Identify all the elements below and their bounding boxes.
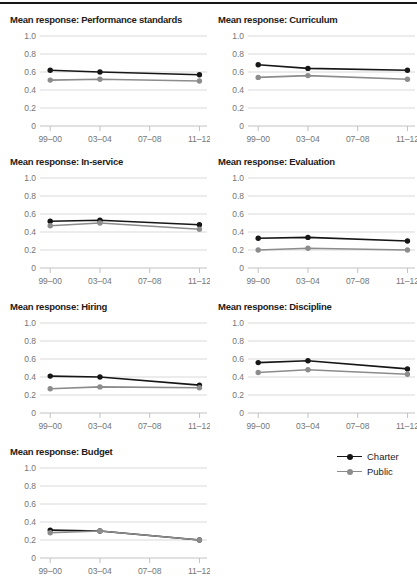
legend-item-charter: Charter xyxy=(337,450,399,463)
x-tick-label: 07–08 xyxy=(346,421,370,431)
legend-dot xyxy=(347,469,353,475)
data-point-public xyxy=(305,367,310,372)
charter-line-marker-icon xyxy=(337,452,362,462)
chart-title: Mean response: Curriculum xyxy=(218,14,417,26)
y-tick-label: 0.2 xyxy=(24,390,36,400)
chart-canvas: 00.20.40.60.81.099–0003–0407–0811–12 xyxy=(218,314,417,434)
data-point-charter xyxy=(197,72,202,77)
line-plot: 00.20.40.60.81.099–0003–0407–0811–12 xyxy=(10,169,208,289)
x-tick-label: 99–00 xyxy=(246,421,270,431)
data-point-public xyxy=(256,370,261,375)
x-tick-label: 03–04 xyxy=(88,421,112,431)
data-point-public xyxy=(97,77,102,82)
x-tick-label: 07–08 xyxy=(346,276,370,286)
data-point-charter xyxy=(97,374,102,379)
y-tick-label: 0.2 xyxy=(232,245,244,255)
y-tick-label: 1.0 xyxy=(232,31,244,41)
chart-title: Mean response: In-service xyxy=(10,156,208,168)
x-tick-label: 03–04 xyxy=(88,566,112,576)
series-line-public xyxy=(50,387,199,389)
chart-canvas: 00.20.40.60.81.099–0003–0407–0811–12 xyxy=(10,27,210,147)
legend: Charter Public xyxy=(208,442,417,577)
x-tick-label: 11–12 xyxy=(396,134,417,144)
chart-title: Mean response: Hiring xyxy=(10,301,208,313)
x-tick-label: 11–12 xyxy=(188,566,210,576)
data-point-charter xyxy=(405,366,410,371)
data-point-public xyxy=(97,220,102,225)
data-point-public xyxy=(48,223,53,228)
x-tick-label: 03–04 xyxy=(296,276,320,286)
data-point-charter xyxy=(256,62,261,67)
y-tick-label: 0.6 xyxy=(232,67,244,77)
line-plot: 00.20.40.60.81.099–0003–0407–0811–12 xyxy=(218,27,417,147)
x-tick-label: 11–12 xyxy=(396,421,417,431)
chart-panel-in-service: Mean response: In-service 00.20.40.60.81… xyxy=(0,152,208,297)
x-tick-label: 99–00 xyxy=(38,566,62,576)
data-point-public xyxy=(197,227,202,232)
y-tick-label: 0 xyxy=(239,263,244,273)
data-point-charter xyxy=(256,236,261,241)
series-line-public xyxy=(50,79,199,81)
data-point-public xyxy=(305,246,310,251)
series-line-public xyxy=(50,531,199,540)
y-tick-label: 0 xyxy=(239,408,244,418)
data-point-public xyxy=(97,384,102,389)
y-tick-label: 0.8 xyxy=(24,336,36,346)
data-point-public xyxy=(197,78,202,83)
chart-panel-curriculum: Mean response: Curriculum 00.20.40.60.81… xyxy=(208,4,417,152)
x-tick-label: 99–00 xyxy=(38,276,62,286)
public-line-marker-icon xyxy=(337,467,362,477)
line-plot: 00.20.40.60.81.099–0003–0407–0811–12 xyxy=(10,314,208,434)
y-tick-label: 0.4 xyxy=(24,227,36,237)
series-line-charter xyxy=(258,65,407,70)
chart-canvas: 00.20.40.60.81.099–0003–0407–0811–12 xyxy=(10,314,210,434)
chart-panel-discipline: Mean response: Discipline 00.20.40.60.81… xyxy=(208,297,417,442)
data-point-public xyxy=(48,386,53,391)
x-tick-label: 11–12 xyxy=(396,276,417,286)
data-point-public xyxy=(256,247,261,252)
y-tick-label: 0.8 xyxy=(24,49,36,59)
y-tick-label: 0.8 xyxy=(232,49,244,59)
line-plot: 00.20.40.60.81.099–0003–0407–0811–12 xyxy=(10,459,208,577)
y-tick-label: 0.4 xyxy=(24,85,36,95)
y-tick-label: 0.4 xyxy=(232,372,244,382)
x-tick-label: 11–12 xyxy=(188,421,210,431)
chart-canvas: 00.20.40.60.81.099–0003–0407–0811–12 xyxy=(10,169,210,289)
data-point-public xyxy=(48,77,53,82)
legend-label-public: Public xyxy=(367,466,393,477)
chart-title: Mean response: Discipline xyxy=(218,301,417,313)
y-tick-label: 0.2 xyxy=(24,535,36,545)
y-tick-label: 0.8 xyxy=(24,481,36,491)
x-tick-label: 07–08 xyxy=(138,276,162,286)
series-line-charter xyxy=(258,237,407,241)
small-multiples-grid: Mean response: Performance standards 00.… xyxy=(0,4,417,577)
x-tick-label: 07–08 xyxy=(138,134,162,144)
chart-panel-hiring: Mean response: Hiring 00.20.40.60.81.099… xyxy=(0,297,208,442)
chart-canvas: 00.20.40.60.81.099–0003–0407–0811–12 xyxy=(10,459,210,577)
line-plot: 00.20.40.60.81.099–0003–0407–0811–12 xyxy=(218,314,417,434)
chart-canvas: 00.20.40.60.81.099–0003–0407–0811–12 xyxy=(218,27,417,147)
x-tick-label: 99–00 xyxy=(246,134,270,144)
chart-panel-budget: Mean response: Budget 00.20.40.60.81.099… xyxy=(0,442,208,577)
chart-title: Mean response: Performance standards xyxy=(10,14,208,26)
y-tick-label: 0.8 xyxy=(232,191,244,201)
data-point-public xyxy=(305,73,310,78)
data-point-public xyxy=(197,385,202,390)
data-point-charter xyxy=(48,373,53,378)
y-tick-label: 0.2 xyxy=(24,103,36,113)
y-tick-label: 0.4 xyxy=(232,85,244,95)
y-tick-label: 0.2 xyxy=(232,390,244,400)
y-tick-label: 0.6 xyxy=(24,209,36,219)
data-point-charter xyxy=(48,68,53,73)
y-tick-label: 1.0 xyxy=(232,173,244,183)
legend-dot xyxy=(347,454,353,460)
y-tick-label: 0.6 xyxy=(24,67,36,77)
line-plot: 00.20.40.60.81.099–0003–0407–0811–12 xyxy=(218,169,417,289)
data-point-public xyxy=(256,75,261,80)
x-tick-label: 07–08 xyxy=(346,134,370,144)
legend-label-charter: Charter xyxy=(367,451,399,462)
data-point-public xyxy=(405,372,410,377)
data-point-public xyxy=(97,528,102,533)
chart-panel-performance-standards: Mean response: Performance standards 00.… xyxy=(0,4,208,152)
data-point-charter xyxy=(405,68,410,73)
